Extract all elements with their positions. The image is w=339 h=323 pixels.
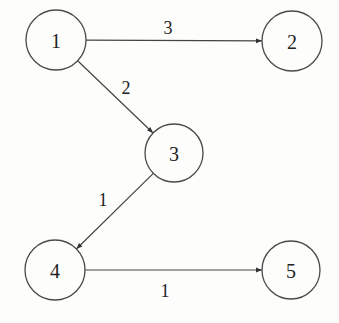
node-label: 4 <box>50 260 60 282</box>
edge-1-3 <box>78 61 153 133</box>
edge-weight-1-2: 3 <box>164 18 173 38</box>
node-label: 3 <box>169 143 179 165</box>
node-label: 1 <box>51 30 61 52</box>
node-5: 5 <box>262 241 320 299</box>
edge-weight-4-5: 1 <box>161 281 170 301</box>
edge-weight-1-3: 2 <box>122 78 131 98</box>
edge-weight-3-4: 1 <box>99 190 108 210</box>
nodes: 1 2 3 4 5 <box>25 10 322 300</box>
node-2: 2 <box>262 11 322 71</box>
edge-3-4 <box>76 173 153 249</box>
node-3: 3 <box>145 124 203 182</box>
edge-1-2 <box>86 40 262 41</box>
graph-diagram: 3 2 1 1 1 2 3 4 5 <box>0 0 339 323</box>
node-1: 1 <box>26 10 86 70</box>
node-4: 4 <box>25 240 85 300</box>
node-label: 2 <box>287 31 297 53</box>
node-label: 5 <box>286 260 296 282</box>
